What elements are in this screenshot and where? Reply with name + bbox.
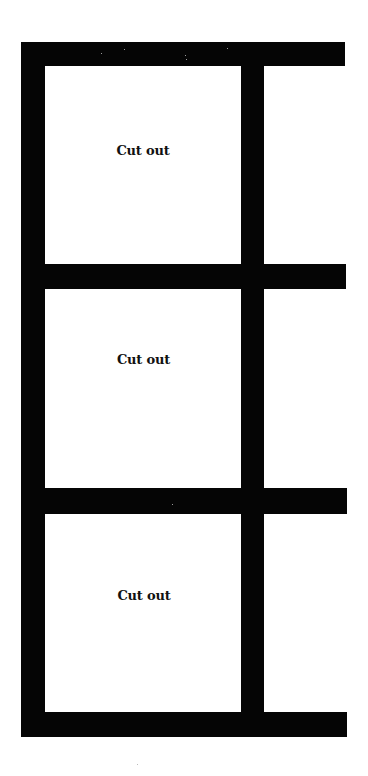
frame-bar-row-2	[23, 488, 347, 514]
frame-column-middle	[241, 42, 264, 737]
scan-speck	[227, 48, 228, 49]
scan-speck	[101, 53, 102, 54]
cutout-cell-2: Cut out	[46, 289, 241, 488]
frame-bar-top	[21, 42, 345, 66]
cutout-template: Cut out Cut out Cut out	[0, 0, 368, 776]
cutout-label: Cut out	[47, 588, 241, 603]
cutout-cell-3: Cut out	[47, 514, 241, 712]
scan-speck	[185, 55, 186, 56]
scan-speck	[186, 59, 187, 60]
cutout-cell-1: Cut out	[45, 66, 241, 264]
frame-column-left	[21, 42, 45, 737]
frame-bar-bottom	[24, 712, 347, 737]
cutout-label: Cut out	[46, 352, 241, 367]
frame-bar-row-1	[22, 264, 346, 289]
scan-speck	[137, 764, 138, 765]
scan-speck	[124, 49, 125, 50]
cutout-label: Cut out	[45, 143, 241, 158]
scan-speck	[172, 504, 173, 505]
